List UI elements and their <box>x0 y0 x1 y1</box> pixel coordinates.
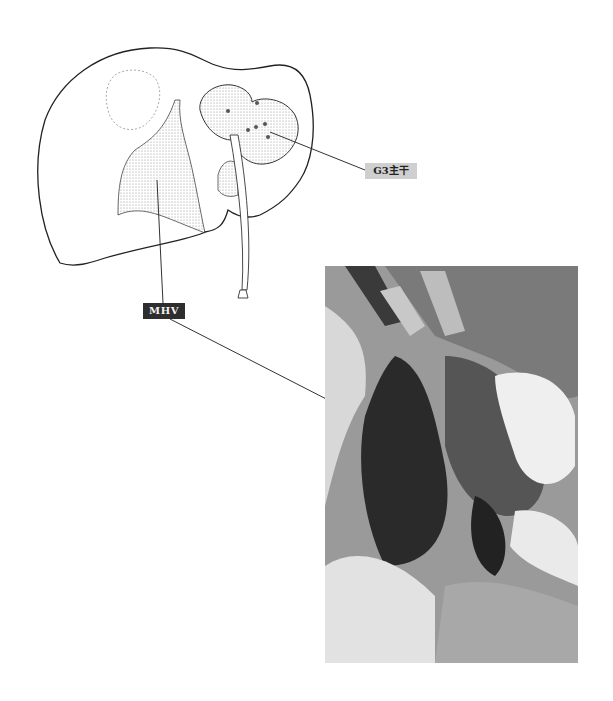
surgical-photo <box>325 266 578 663</box>
g3-trunk-label: G3主干 <box>365 163 417 179</box>
surgical-photo-graphic <box>325 266 578 663</box>
figure: G3主干 MHV <box>0 0 613 701</box>
tube-end <box>238 290 248 298</box>
mhv-label: MHV <box>143 303 185 319</box>
